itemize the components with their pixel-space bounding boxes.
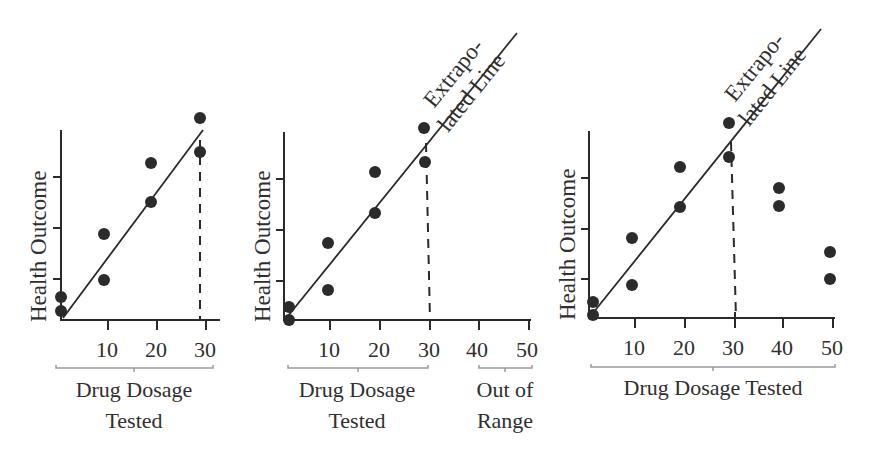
figure: Health Outcome 10 20 30 Drug bbox=[0, 0, 870, 452]
caption: Tested bbox=[328, 408, 385, 433]
y-ticks bbox=[276, 179, 284, 281]
data-points bbox=[55, 112, 206, 317]
x-ticks bbox=[635, 312, 833, 328]
x-tick-label: 20 bbox=[145, 337, 167, 362]
x-tick-label: 20 bbox=[673, 335, 695, 360]
bracket bbox=[479, 365, 532, 372]
x-tick-label: 40 bbox=[466, 337, 488, 362]
caption: Drug Dosage bbox=[76, 377, 193, 402]
caption: Tested bbox=[105, 408, 162, 433]
panel-1: Health Outcome 10 20 30 Drug bbox=[26, 112, 220, 433]
dashed-marker bbox=[426, 143, 430, 320]
x-tick-label: 50 bbox=[516, 337, 538, 362]
x-ticks bbox=[330, 320, 529, 330]
panel-2: Health Outcome 10 20 30 40 50 Extrapo- l… bbox=[250, 32, 538, 433]
x-tick-label: 10 bbox=[623, 335, 645, 360]
bracket bbox=[591, 364, 835, 371]
dashed-marker bbox=[731, 142, 736, 318]
x-tick-label: 20 bbox=[368, 337, 390, 362]
panel-3: Health Outcome 10 20 30 40 50 Extrapo- l… bbox=[555, 26, 843, 400]
x-tick-label: 10 bbox=[318, 337, 340, 362]
y-axis-label: Health Outcome bbox=[250, 171, 275, 322]
fit-line bbox=[63, 130, 203, 318]
bracket bbox=[56, 365, 213, 372]
data-points bbox=[587, 117, 836, 321]
caption: Drug Dosage Tested bbox=[624, 375, 803, 400]
x-tick-label: 30 bbox=[418, 337, 440, 362]
annotation-extrapolated-line: Extrapo- lated Line bbox=[412, 32, 510, 136]
annotation-extrapolated-line: Extrapo- lated Line bbox=[713, 26, 811, 130]
y-axis-label: Health Outcome bbox=[555, 169, 580, 320]
x-tick-label: 40 bbox=[771, 335, 793, 360]
x-tick-label: 50 bbox=[821, 335, 843, 360]
bracket bbox=[288, 365, 428, 372]
y-axis-label: Health Outcome bbox=[26, 171, 51, 322]
y-ticks bbox=[581, 178, 589, 279]
x-tick-label: 30 bbox=[722, 335, 744, 360]
x-tick-label: 30 bbox=[194, 337, 216, 362]
caption: Drug Dosage bbox=[299, 377, 416, 402]
y-ticks bbox=[53, 177, 61, 279]
x-tick-label: 10 bbox=[96, 337, 118, 362]
caption: Range bbox=[477, 408, 533, 433]
x-ticks bbox=[108, 320, 206, 330]
caption: Out of bbox=[477, 377, 535, 402]
